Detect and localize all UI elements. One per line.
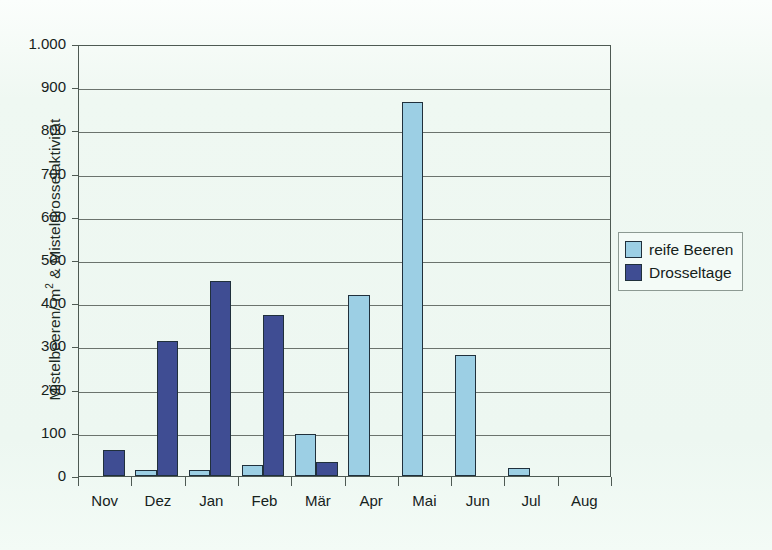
- legend-item-reife-beeren: reife Beeren: [625, 238, 733, 261]
- y-axis-title-exponent: 2: [44, 283, 55, 289]
- bar-jan-reife-beeren: [189, 470, 210, 476]
- y-axis-tick-label: 300: [0, 337, 66, 354]
- y-axis-tick-label: 500: [0, 251, 66, 268]
- x-axis-label-aug: Aug: [554, 492, 614, 509]
- chart-figure: Mistelbeeren/ m2 & Misteldrosselaktivitä…: [0, 0, 772, 550]
- y-axis-tick-label: 0: [0, 467, 66, 484]
- x-axis-tick-mark: [451, 477, 452, 486]
- bar-dez-reife-beeren: [135, 470, 156, 476]
- x-axis-label-jul: Jul: [501, 492, 561, 509]
- bar-mär-reife-beeren: [295, 434, 316, 476]
- x-axis-label-mai: Mai: [394, 492, 454, 509]
- bar-feb-drosseltage: [263, 315, 284, 476]
- x-axis-tick-mark: [131, 477, 132, 486]
- x-axis-tick-mark: [558, 477, 559, 486]
- y-axis-tick-label: 400: [0, 294, 66, 311]
- y-axis-tick-label: 700: [0, 165, 66, 182]
- x-axis-label-dez: Dez: [128, 492, 188, 509]
- bar-feb-reife-beeren: [242, 465, 263, 476]
- legend: reife BeerenDrosseltage: [618, 232, 743, 291]
- y-axis-tick-label: 100: [0, 424, 66, 441]
- x-axis-tick-mark: [345, 477, 346, 486]
- legend-item-drosseltage: Drosseltage: [625, 261, 733, 284]
- y-axis-tick-label: 1.000: [0, 35, 66, 52]
- y-axis-tick-label: 900: [0, 78, 66, 95]
- bar-nov-drosseltage: [103, 450, 124, 476]
- bar-jul-reife-beeren: [508, 468, 529, 476]
- y-axis-tick-label: 600: [0, 208, 66, 225]
- bar-mär-drosseltage: [316, 462, 337, 476]
- y-axis-tick-label: 800: [0, 121, 66, 138]
- x-axis-tick-mark: [78, 477, 79, 486]
- bar-mai-reife-beeren: [402, 102, 423, 476]
- bar-jun-reife-beeren: [455, 355, 476, 476]
- x-axis-tick-mark: [504, 477, 505, 486]
- x-axis-label-apr: Apr: [341, 492, 401, 509]
- x-axis-label-jan: Jan: [181, 492, 241, 509]
- legend-swatch-icon: [625, 264, 642, 281]
- plot-area: [78, 45, 611, 477]
- x-axis-label-feb: Feb: [235, 492, 295, 509]
- x-axis-tick-mark: [185, 477, 186, 486]
- bar-dez-drosseltage: [157, 341, 178, 476]
- x-axis-label-jun: Jun: [448, 492, 508, 509]
- x-axis-tick-mark: [611, 477, 612, 486]
- y-axis-tick-label: 200: [0, 381, 66, 398]
- legend-label: reife Beeren: [649, 241, 733, 259]
- bar-apr-reife-beeren: [348, 295, 369, 476]
- x-axis-tick-mark: [398, 477, 399, 486]
- legend-label: Drosseltage: [649, 264, 732, 282]
- x-axis-tick-mark: [238, 477, 239, 486]
- x-axis-label-mär: Mär: [288, 492, 348, 509]
- x-axis-tick-mark: [291, 477, 292, 486]
- x-axis-label-nov: Nov: [75, 492, 135, 509]
- legend-swatch-icon: [625, 241, 642, 258]
- bars-layer: [79, 46, 610, 476]
- bar-jan-drosseltage: [210, 281, 231, 476]
